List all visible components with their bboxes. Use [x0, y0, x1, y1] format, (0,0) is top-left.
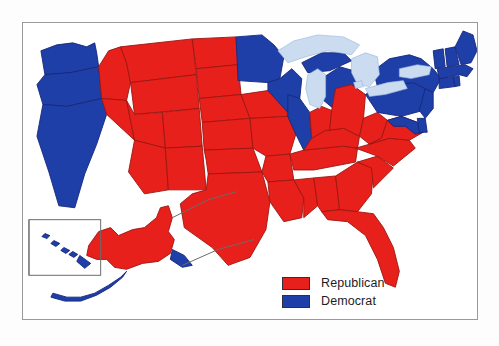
republican-swatch — [282, 277, 310, 290]
state-SD — [196, 65, 241, 99]
screenshot-root: .rep { fill: #e8201c; stroke: #9c1510; s… — [0, 0, 499, 346]
map-frame: .rep { fill: #e8201c; stroke: #9c1510; s… — [22, 22, 478, 320]
state-OH — [330, 85, 366, 137]
us-election-map: .rep { fill: #e8201c; stroke: #9c1510; s… — [23, 23, 477, 319]
state-ND — [192, 37, 238, 69]
democrat-swatch — [282, 295, 310, 308]
state-GA — [336, 162, 374, 212]
state-MN — [236, 35, 284, 83]
state-DE — [417, 118, 427, 132]
state-AK — [87, 206, 175, 270]
state-MO — [250, 116, 296, 156]
state-KS — [202, 118, 253, 150]
state-NV — [102, 98, 135, 140]
party-legend: Republican Democrat — [282, 275, 402, 311]
state-NM — [165, 146, 206, 190]
state-OK — [204, 148, 262, 174]
state-TN — [290, 146, 358, 170]
legend-row-democrat: Democrat — [282, 293, 402, 309]
state-AR — [262, 154, 294, 182]
legend-label-democrat: Democrat — [321, 294, 376, 308]
state-AZ — [129, 140, 169, 194]
state-CA — [37, 98, 107, 207]
state-CO — [162, 108, 202, 148]
state-VT — [433, 49, 445, 69]
lake-michigan — [306, 69, 326, 109]
state-HI — [42, 234, 91, 269]
state-AL — [314, 176, 340, 212]
legend-row-republican: Republican — [282, 275, 402, 291]
lake-huron — [352, 53, 380, 87]
alaska-panhandle — [170, 249, 192, 267]
legend-label-republican: Republican — [321, 276, 385, 290]
